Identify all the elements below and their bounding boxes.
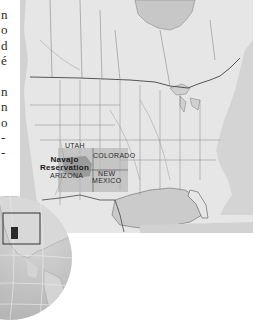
label-utah: UTAH xyxy=(65,142,85,149)
label-new-mexico-line1: NEW xyxy=(92,170,121,177)
text-fragment: n xyxy=(1,8,8,21)
text-fragment: o xyxy=(1,116,8,129)
label-new-mexico: NEW MEXICO xyxy=(92,170,121,184)
region-marker xyxy=(11,227,18,239)
label-colorado: COLORADO xyxy=(93,152,135,159)
north-america-map: UTAH COLORADO Navajo Reservation ARIZONA… xyxy=(20,0,253,233)
text-fragment: o xyxy=(1,23,8,36)
text-fragment: n xyxy=(1,100,8,113)
label-navajo-reservation: Navajo Reservation xyxy=(40,156,89,173)
text-fragment: é xyxy=(1,54,7,67)
text-fragment: d xyxy=(1,39,8,52)
text-fragment: - xyxy=(1,146,5,159)
map-graphic xyxy=(20,0,253,233)
text-fragment: n xyxy=(1,85,8,98)
text-fragment: - xyxy=(1,131,5,144)
label-arizona: ARIZONA xyxy=(50,172,83,179)
label-new-mexico-line2: MEXICO xyxy=(92,177,121,184)
